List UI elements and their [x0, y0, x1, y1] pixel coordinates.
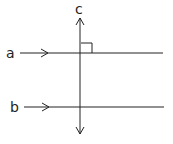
line-b — [24, 103, 164, 111]
label-a: a — [6, 45, 15, 61]
line-c — [76, 18, 84, 134]
label-b: b — [10, 99, 19, 115]
parallel-lines-diagram: a b c — [0, 0, 173, 144]
right-angle-icon — [81, 43, 92, 53]
label-c: c — [75, 1, 83, 17]
